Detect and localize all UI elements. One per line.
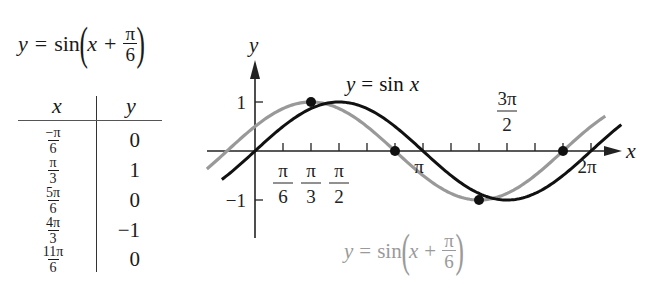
x-axis-arrow — [604, 146, 622, 156]
label-var: x — [410, 72, 419, 97]
label-eq: = — [359, 239, 371, 264]
x-tick-label-numerator: π — [334, 160, 344, 181]
y-axis-arrow — [250, 60, 260, 79]
x-tick-label-numerator: π — [306, 160, 316, 181]
label-frac-den: 6 — [442, 250, 456, 271]
label-var: x — [409, 239, 418, 264]
label-open-paren: ( — [401, 228, 409, 274]
label-shifted-sine: y = sin ( x + π 6 ) — [344, 228, 463, 274]
label-lhs: y — [344, 239, 353, 264]
x-tick-label: π — [414, 156, 424, 177]
x-axis-label: x — [626, 138, 636, 164]
x-tick-label-denominator: 6 — [278, 186, 288, 207]
label-plus: + — [424, 239, 436, 264]
x-tick-label-denominator: 2 — [334, 186, 344, 207]
tick-labels: π6π3π2π3π22π1−1 — [226, 88, 597, 211]
x-tick-label-numerator: 3π — [497, 88, 517, 109]
label-fn: sin — [379, 72, 404, 97]
label-close-paren: ) — [455, 228, 463, 274]
label-sin-x: y = sin x — [346, 72, 419, 97]
x-tick-label-denominator: 3 — [306, 186, 316, 207]
marked-point — [474, 195, 484, 205]
marked-point — [558, 146, 568, 156]
y-tick-label: 1 — [237, 92, 247, 113]
x-tick-label: 2π — [577, 156, 597, 177]
x-tick-label-numerator: π — [278, 160, 288, 181]
label-fn: sin — [377, 239, 402, 264]
marked-point — [306, 97, 316, 107]
label-eq: = — [361, 72, 373, 97]
label-fraction: π 6 — [442, 231, 456, 271]
sine-graph: π6π3π2π3π22π1−1 — [0, 0, 660, 293]
label-frac-num: π — [442, 231, 456, 250]
y-tick-label: −1 — [226, 190, 246, 211]
y-axis-label: y — [249, 33, 258, 58]
x-tick-label-denominator: 2 — [502, 114, 512, 135]
label-lhs: y — [346, 72, 355, 97]
marked-point — [390, 146, 400, 156]
